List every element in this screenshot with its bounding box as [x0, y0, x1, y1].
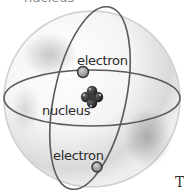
- cut-off-label: nucleus: [24, 0, 74, 4]
- electron-bottom-particle: [92, 162, 102, 172]
- shading-bottom-right: [124, 108, 172, 168]
- corner-letter: T: [175, 175, 184, 189]
- electron-bottom-label: electron: [53, 149, 104, 162]
- nucleus-label: nucleus: [42, 104, 90, 117]
- electron-top-particle: [78, 67, 89, 78]
- electron-top-label: electron: [77, 54, 128, 67]
- shading-left: [11, 86, 39, 134]
